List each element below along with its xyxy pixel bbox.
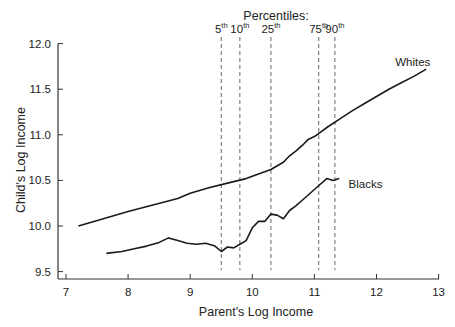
series-group: WhitesBlacks bbox=[78, 56, 430, 253]
x-tick-label: 7 bbox=[63, 286, 69, 298]
axes: 789101112139.510.010.511.011.512.0 bbox=[29, 38, 445, 298]
x-tick-label: 13 bbox=[432, 286, 445, 298]
x-axis-label: Parent's Log Income bbox=[199, 305, 313, 319]
percentile-label: 90th bbox=[325, 21, 344, 35]
percentile-label: 5th bbox=[215, 21, 228, 35]
y-tick-label: 11.0 bbox=[29, 129, 51, 141]
percentiles-title: Percentiles: bbox=[243, 9, 308, 23]
y-axis-label: Child's Log Income bbox=[14, 107, 28, 213]
y-tick-label: 10.5 bbox=[29, 174, 51, 186]
y-tick-label: 10.0 bbox=[29, 220, 51, 232]
line-chart: 789101112139.510.010.511.011.512.0 5th10… bbox=[0, 0, 455, 327]
y-tick-label: 12.0 bbox=[29, 38, 51, 50]
percentile-label: 25th bbox=[261, 21, 280, 35]
y-tick-label: 11.5 bbox=[29, 83, 51, 95]
x-tick-label: 8 bbox=[125, 286, 131, 298]
x-tick-label: 11 bbox=[308, 286, 320, 298]
percentile-lines: 5th10th25th75th90th bbox=[215, 21, 345, 270]
percentile-label: 10th bbox=[230, 21, 249, 35]
series-line-blacks bbox=[106, 179, 339, 254]
x-tick-label: 10 bbox=[246, 286, 259, 298]
x-tick-label: 12 bbox=[370, 286, 383, 298]
series-label-whites: Whites bbox=[395, 56, 430, 68]
series-label-blacks: Blacks bbox=[349, 178, 383, 190]
y-tick-label: 9.5 bbox=[35, 266, 51, 278]
x-tick-label: 9 bbox=[187, 286, 193, 298]
series-line-whites bbox=[78, 69, 426, 226]
